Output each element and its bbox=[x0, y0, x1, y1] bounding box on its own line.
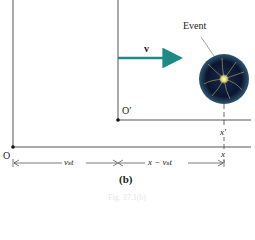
x-prime-label: x′ bbox=[220, 128, 226, 137]
event-leader-line bbox=[201, 37, 214, 56]
dimension-left-label: vₛt bbox=[64, 158, 74, 167]
panel-label: (b) bbox=[119, 174, 132, 185]
event-label: Event bbox=[183, 21, 206, 31]
origin-prime-dot bbox=[116, 118, 120, 122]
dimension-line bbox=[13, 159, 224, 167]
figure-caption: Fig. 37.1(b) bbox=[108, 194, 146, 202]
velocity-label: v bbox=[144, 44, 149, 54]
dimension-right-label: x − vₛt bbox=[148, 158, 172, 167]
origin-prime-label: O′ bbox=[122, 106, 131, 116]
origin-dot bbox=[11, 145, 15, 149]
event-icon bbox=[199, 54, 249, 104]
origin-label: O bbox=[3, 151, 10, 161]
x-label: x bbox=[221, 150, 225, 159]
